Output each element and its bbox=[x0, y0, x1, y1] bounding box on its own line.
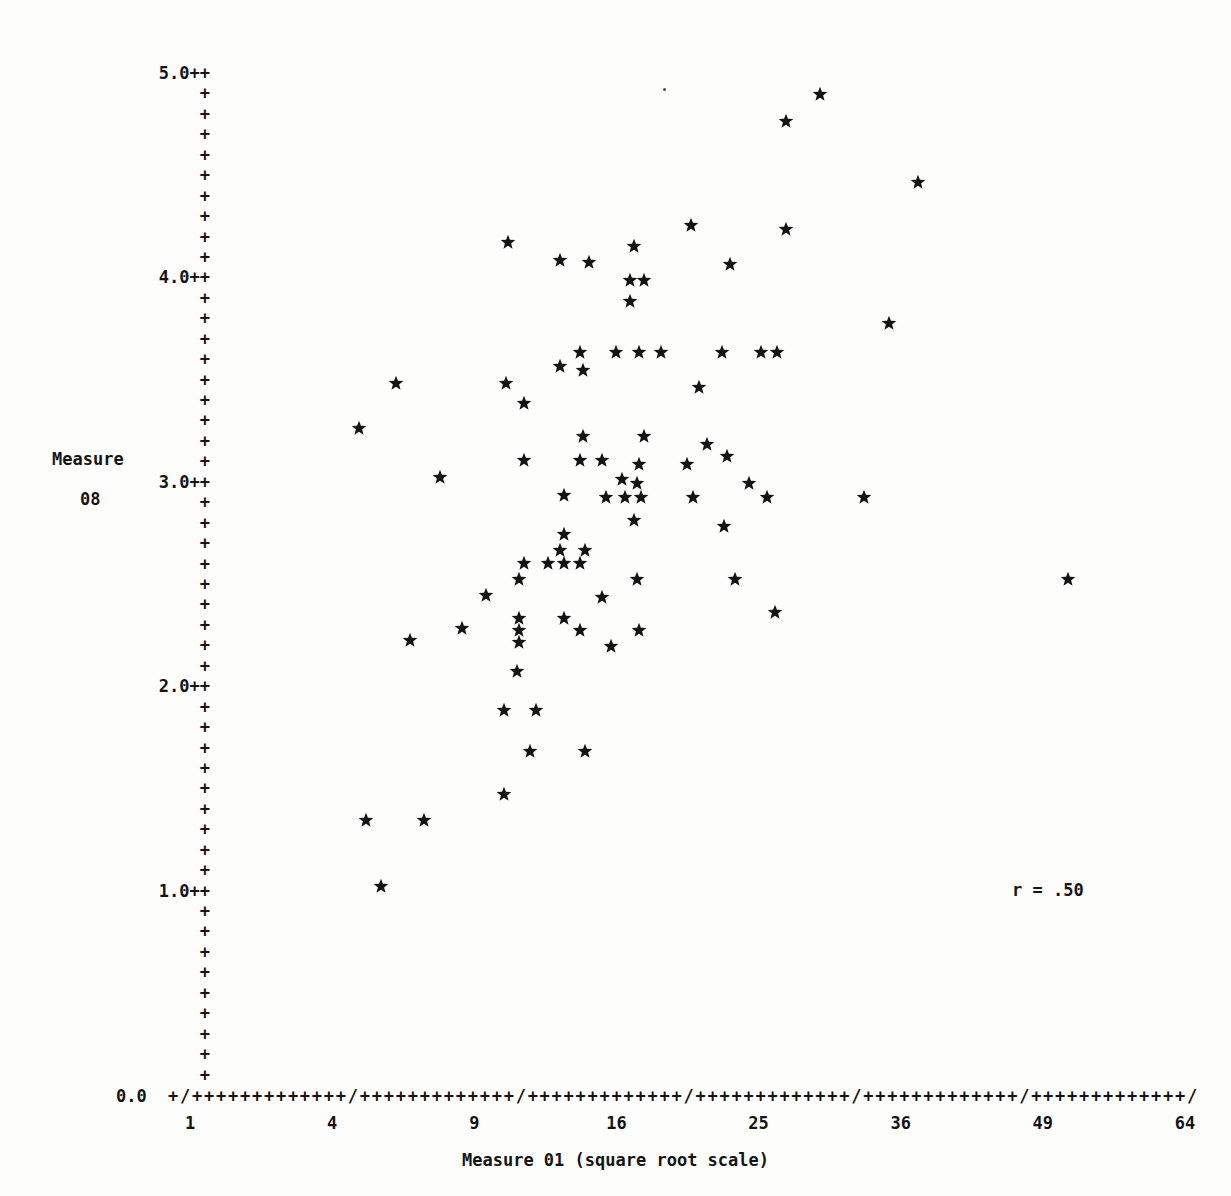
y-axis-minor-tick: + bbox=[120, 410, 210, 430]
y-axis-zero-label: 0.0 bbox=[116, 1086, 147, 1106]
x-axis-tick-label: 25 bbox=[748, 1113, 768, 1133]
data-point-marker bbox=[552, 358, 568, 374]
y-axis-minor-tick: + bbox=[120, 738, 210, 758]
y-axis-minor-tick: + bbox=[120, 288, 210, 308]
y-axis-major-tick: 3.0++ bbox=[120, 472, 210, 492]
x-axis-tick-label: 1 bbox=[185, 1113, 195, 1133]
data-point-marker bbox=[633, 489, 649, 505]
data-point-marker bbox=[881, 315, 897, 331]
x-axis-tick-labels: 1491625364964 bbox=[0, 1113, 1231, 1139]
y-axis-major-tick: 1.0++ bbox=[120, 881, 210, 901]
data-point-marker bbox=[636, 428, 652, 444]
y-axis-minor-tick: + bbox=[120, 370, 210, 390]
data-point-marker bbox=[812, 86, 828, 102]
data-point-marker bbox=[653, 344, 669, 360]
x-axis-line: +/+++++++++++++/+++++++++++++/++++++++++… bbox=[168, 1086, 1199, 1106]
y-axis-minor-tick: + bbox=[120, 124, 210, 144]
y-axis-minor-tick: + bbox=[120, 165, 210, 185]
y-axis-minor-tick: + bbox=[120, 921, 210, 941]
y-axis-title-line2: 08 bbox=[80, 489, 100, 509]
y-axis-minor-tick: + bbox=[120, 186, 210, 206]
data-point-marker bbox=[753, 344, 769, 360]
y-axis-minor-tick: + bbox=[120, 697, 210, 717]
data-point-marker bbox=[516, 395, 532, 411]
data-point-marker bbox=[767, 604, 783, 620]
y-axis-minor-tick: + bbox=[120, 656, 210, 676]
data-point-marker bbox=[614, 471, 630, 487]
x-axis-tick-label: 64 bbox=[1175, 1113, 1195, 1133]
data-point-marker bbox=[516, 452, 532, 468]
y-axis-minor-tick: + bbox=[120, 983, 210, 1003]
x-axis-tick-label: 9 bbox=[469, 1113, 479, 1133]
data-point-marker bbox=[636, 272, 652, 288]
y-axis-minor-tick: + bbox=[120, 1003, 210, 1023]
data-point-marker bbox=[572, 452, 588, 468]
y-axis-major-tick: 4.0++ bbox=[120, 267, 210, 287]
data-point-marker bbox=[691, 379, 707, 395]
data-point-marker bbox=[598, 489, 614, 505]
data-point-marker bbox=[778, 221, 794, 237]
y-axis-minor-tick: + bbox=[120, 390, 210, 410]
y-axis-title-line1: Measure bbox=[52, 449, 124, 469]
data-point-marker bbox=[629, 475, 645, 491]
data-point-marker bbox=[626, 512, 642, 528]
data-point-marker bbox=[741, 475, 757, 491]
x-axis-tick-label: 49 bbox=[1033, 1113, 1053, 1133]
data-point-marker bbox=[511, 622, 527, 638]
data-point-marker bbox=[511, 571, 527, 587]
y-axis-minor-tick: + bbox=[120, 778, 210, 798]
data-point-marker bbox=[722, 256, 738, 272]
y-axis-minor-tick: + bbox=[120, 840, 210, 860]
data-point-marker bbox=[388, 375, 404, 391]
data-point-marker bbox=[556, 555, 572, 571]
data-point-marker bbox=[358, 812, 374, 828]
data-point-marker bbox=[631, 456, 647, 472]
data-point-marker bbox=[351, 420, 367, 436]
y-axis-minor-tick: + bbox=[120, 83, 210, 103]
y-axis-minor-tick: + bbox=[120, 145, 210, 165]
y-axis-minor-tick: + bbox=[120, 962, 210, 982]
correlation-annotation: r = .50 bbox=[1012, 880, 1084, 900]
data-point-marker bbox=[416, 812, 432, 828]
data-point-marker bbox=[727, 571, 743, 587]
data-point-marker bbox=[432, 469, 448, 485]
data-point-marker bbox=[572, 344, 588, 360]
data-point-marker bbox=[856, 489, 872, 505]
x-axis-title: Measure 01 (square root scale) bbox=[0, 1150, 1231, 1170]
data-point-marker bbox=[575, 428, 591, 444]
y-axis-minor-tick: + bbox=[120, 819, 210, 839]
data-point-marker bbox=[631, 622, 647, 638]
y-axis-minor-tick: + bbox=[120, 901, 210, 921]
y-axis-minor-tick: + bbox=[120, 1024, 210, 1044]
data-point-marker bbox=[540, 555, 556, 571]
data-point-marker bbox=[603, 638, 619, 654]
y-axis-minor-tick: + bbox=[120, 492, 210, 512]
data-point-marker bbox=[714, 344, 730, 360]
y-axis-minor-tick: + bbox=[120, 247, 210, 267]
data-point-marker bbox=[679, 456, 695, 472]
data-point-marker bbox=[556, 610, 572, 626]
data-point-marker bbox=[699, 436, 715, 452]
y-axis-minor-tick: + bbox=[120, 574, 210, 594]
y-axis-minor-tick: + bbox=[120, 799, 210, 819]
y-axis-minor-tick: + bbox=[120, 1065, 210, 1085]
data-point-marker bbox=[552, 252, 568, 268]
data-point-marker bbox=[528, 702, 544, 718]
x-axis-tick-label: 16 bbox=[606, 1113, 626, 1133]
y-axis-minor-tick: + bbox=[120, 554, 210, 574]
data-point-marker bbox=[496, 702, 512, 718]
y-axis-major-tick: 5.0++ bbox=[120, 63, 210, 83]
data-point-marker bbox=[498, 375, 514, 391]
data-point-marker bbox=[522, 743, 538, 759]
x-axis-tick-label: 36 bbox=[890, 1113, 910, 1133]
data-point-marker bbox=[581, 254, 597, 270]
chart-page: 5.0+++++++++++4.0+++++++++++3.0+++++++++… bbox=[0, 0, 1231, 1196]
data-point-marker bbox=[552, 542, 568, 558]
y-axis-minor-tick: + bbox=[120, 1044, 210, 1064]
data-point-marker bbox=[629, 571, 645, 587]
data-point-marker bbox=[511, 634, 527, 650]
data-point-marker bbox=[608, 344, 624, 360]
y-axis-minor-tick: + bbox=[120, 431, 210, 451]
data-point-marker bbox=[572, 555, 588, 571]
data-point-marker bbox=[622, 293, 638, 309]
